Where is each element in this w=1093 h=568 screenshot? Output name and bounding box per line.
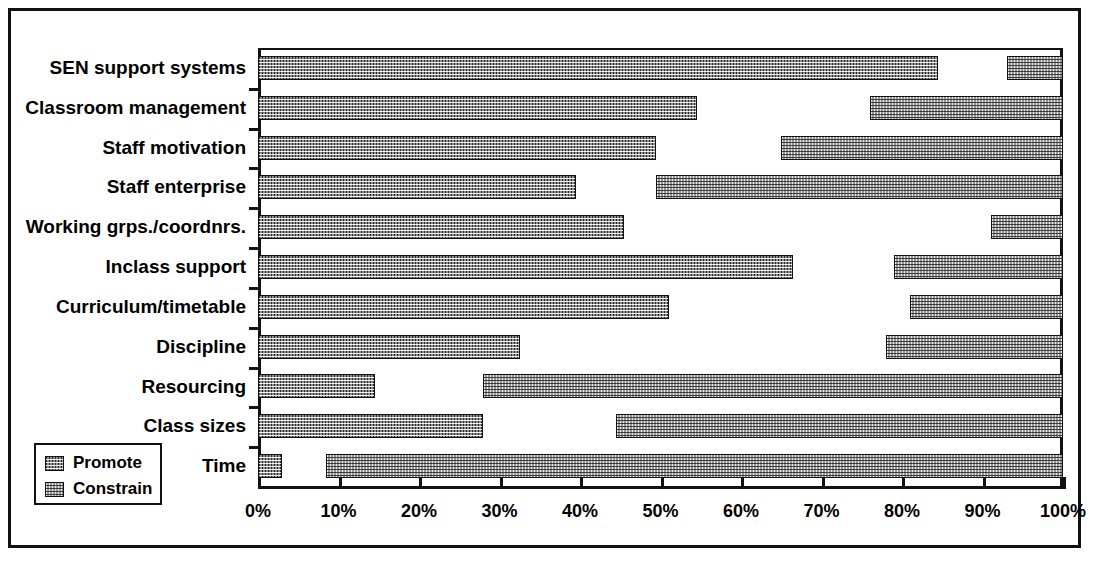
y-axis-tick: [249, 88, 261, 91]
bar-promote: [258, 454, 282, 478]
bar-promote: [258, 295, 669, 319]
y-axis-tick: [249, 446, 261, 449]
category-label: Resourcing: [141, 367, 258, 407]
bar-promote: [258, 255, 793, 279]
bar-constrain: [991, 215, 1063, 239]
bar-constrain: [870, 96, 1063, 120]
x-axis-tick: [258, 477, 261, 489]
legend-label-constrain: Constrain: [73, 479, 152, 499]
plot-area: SEN support systemsClassroom managementS…: [258, 48, 1063, 486]
category-label: Inclass support: [106, 247, 258, 287]
bar-promote: [258, 414, 483, 438]
x-axis-tick-label: 90%: [964, 501, 1000, 522]
x-axis-tick-label: 80%: [884, 501, 920, 522]
category-label: Class sizes: [144, 406, 258, 446]
category-label: Discipline: [156, 327, 258, 367]
legend-swatch-constrain-icon: [45, 482, 64, 497]
y-axis-tick: [249, 367, 261, 370]
category-label: Classroom management: [25, 88, 258, 128]
y-axis-tick: [249, 327, 261, 330]
y-axis-tick: [249, 167, 261, 170]
y-axis-tick: [249, 207, 261, 210]
bar-constrain: [483, 374, 1063, 398]
y-axis-tick: [249, 128, 261, 131]
bar-row: Discipline: [258, 327, 1063, 367]
bar-constrain: [781, 136, 1063, 160]
bar-promote: [258, 175, 576, 199]
x-axis-tick-label: 40%: [562, 501, 598, 522]
x-axis-tick-label: 10%: [320, 501, 356, 522]
bar-row: Working grps./coordnrs.: [258, 207, 1063, 247]
x-axis-tick-label: 20%: [401, 501, 437, 522]
bar-constrain: [656, 175, 1063, 199]
y-axis-tick: [249, 406, 261, 409]
x-axis-tick-label: 70%: [803, 501, 839, 522]
bar-row: Staff motivation: [258, 128, 1063, 168]
legend-item-constrain: Constrain: [45, 477, 152, 501]
x-axis-tick-label: 50%: [642, 501, 678, 522]
category-label: Curriculum/timetable: [56, 287, 258, 327]
x-axis-tick: [500, 477, 503, 489]
category-label: SEN support systems: [50, 48, 258, 88]
x-axis-tick: [902, 477, 905, 489]
bar-row: Classroom management: [258, 88, 1063, 128]
category-label: Working grps./coordnrs.: [26, 207, 258, 247]
bar-promote: [258, 56, 938, 80]
bar-promote: [258, 335, 520, 359]
legend-label-promote: Promote: [73, 453, 142, 473]
legend-swatch-promote-icon: [45, 456, 64, 471]
bar-row: Staff enterprise: [258, 167, 1063, 207]
bar-promote: [258, 215, 624, 239]
x-axis-tick-label: 100%: [1040, 501, 1086, 522]
x-axis-tick-label: 30%: [481, 501, 517, 522]
bar-constrain: [894, 255, 1063, 279]
x-axis-tick: [1063, 477, 1066, 489]
category-label: Time: [202, 446, 258, 486]
bar-row: SEN support systems: [258, 48, 1063, 88]
bar-promote: [258, 374, 375, 398]
category-label: Staff enterprise: [107, 167, 258, 207]
x-axis-tick: [580, 477, 583, 489]
chart-figure: SEN support systemsClassroom managementS…: [0, 0, 1093, 568]
x-axis-tick: [419, 477, 422, 489]
bar-row: Resourcing: [258, 367, 1063, 407]
bar-row: Class sizes: [258, 406, 1063, 446]
legend-item-promote: Promote: [45, 451, 142, 475]
bar-promote: [258, 136, 656, 160]
x-axis-tick-label: 0%: [245, 501, 271, 522]
y-axis-tick: [249, 247, 261, 250]
x-axis-tick: [983, 477, 986, 489]
bar-constrain: [616, 414, 1063, 438]
bar-constrain: [886, 335, 1063, 359]
y-axis-tick: [249, 287, 261, 290]
x-axis-tick-label: 60%: [723, 501, 759, 522]
x-axis-tick: [741, 477, 744, 489]
category-label: Staff motivation: [102, 128, 258, 168]
x-axis-tick: [661, 477, 664, 489]
bar-constrain: [910, 295, 1063, 319]
bar-constrain: [1007, 56, 1063, 80]
x-axis-tick: [822, 477, 825, 489]
chart-legend: Promote Constrain: [34, 443, 162, 505]
x-axis-tick-labels: 0%10%20%30%40%50%60%70%80%90%100%: [258, 489, 1063, 529]
bar-row: Curriculum/timetable: [258, 287, 1063, 327]
bar-row: Inclass support: [258, 247, 1063, 287]
bar-promote: [258, 96, 697, 120]
bar-constrain: [326, 454, 1063, 478]
x-axis-tick: [339, 477, 342, 489]
